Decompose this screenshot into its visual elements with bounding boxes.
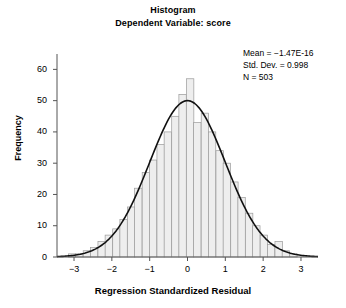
- histogram-bar: [231, 182, 238, 257]
- x-axis-tick-label: −2: [100, 265, 124, 274]
- histogram-bar: [223, 163, 230, 257]
- y-axis-tick-label: 30: [17, 159, 47, 168]
- histogram-bar: [216, 151, 223, 257]
- std-dev-label: Std. Dev. = 0.998: [243, 59, 313, 71]
- x-axis-tick-label: 1: [213, 265, 237, 274]
- histogram-bar: [149, 160, 156, 257]
- histogram-bar: [186, 79, 193, 257]
- histogram-bar: [157, 144, 164, 257]
- histogram-bar: [164, 132, 171, 257]
- chart-subtitle: Dependent Variable: score: [0, 17, 346, 30]
- histogram-bar: [127, 207, 134, 257]
- n-label: N = 503: [243, 71, 313, 83]
- x-axis-label: Regression Standardized Residual: [0, 285, 346, 296]
- mean-label: Mean = −1.47E-16: [243, 47, 313, 59]
- histogram-bar: [208, 132, 215, 257]
- histogram-bar: [172, 116, 179, 257]
- x-axis-tick-label: −3: [62, 265, 86, 274]
- x-axis-tick-label: −1: [138, 265, 162, 274]
- y-axis-tick-label: 50: [17, 96, 47, 105]
- histogram-bar: [194, 123, 201, 257]
- y-axis-tick-label: 60: [17, 65, 47, 74]
- y-axis-tick-label: 10: [17, 221, 47, 230]
- histogram-bar: [135, 188, 142, 257]
- x-axis-tick-label: 0: [176, 265, 200, 274]
- histogram-bar: [201, 113, 208, 257]
- y-axis-tick-label: 20: [17, 190, 47, 199]
- histogram-bars: [68, 79, 297, 257]
- y-axis-tick-label: 0: [17, 253, 47, 262]
- histogram-bar: [179, 94, 186, 257]
- chart-title-block: Histogram Dependent Variable: score: [0, 4, 346, 30]
- histogram-figure: Histogram Dependent Variable: score Mean…: [0, 0, 346, 308]
- x-axis-tick-label: 3: [289, 265, 313, 274]
- statistics-annotation: Mean = −1.47E-16 Std. Dev. = 0.998 N = 5…: [243, 47, 313, 83]
- histogram-bar: [142, 173, 149, 257]
- y-axis-tick-label: 40: [17, 127, 47, 136]
- chart-title: Histogram: [0, 4, 346, 17]
- x-axis-tick-label: 2: [251, 265, 275, 274]
